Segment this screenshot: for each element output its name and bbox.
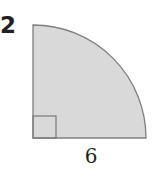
quarter-circle-shape: [33, 25, 146, 138]
radius-label: 6: [80, 146, 102, 166]
